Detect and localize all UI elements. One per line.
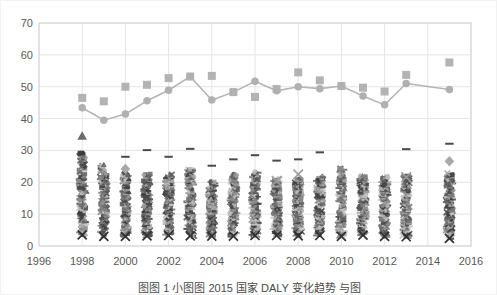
marker-square xyxy=(294,68,302,76)
x-axis-tick-label: 2006 xyxy=(243,255,267,267)
marker-square xyxy=(100,97,108,105)
line-series xyxy=(78,73,453,124)
figure-canvas: 0102030405060701996199820002002200420062… xyxy=(0,0,497,295)
marker-dash xyxy=(272,160,280,162)
marker-square xyxy=(381,87,389,95)
marker-circle xyxy=(165,86,173,94)
triangle-outlier xyxy=(77,131,87,139)
x-axis-tick-label: 2012 xyxy=(372,255,396,267)
marker-dash xyxy=(445,143,453,145)
marker-dash xyxy=(188,167,194,169)
marker-square xyxy=(316,76,324,84)
marker-circle xyxy=(122,110,129,118)
marker-diamond xyxy=(445,156,455,166)
marker-dash xyxy=(402,148,410,150)
marker-circle xyxy=(78,104,86,112)
y-axis-tick-label: 30 xyxy=(21,144,33,156)
y-axis-tick-label: 10 xyxy=(21,208,33,220)
marker-dash xyxy=(121,156,129,158)
x-axis-tick-label: 2016 xyxy=(459,255,483,267)
marker-square xyxy=(359,84,367,92)
marker-circle xyxy=(294,83,302,91)
x-axis-tick-label: 2010 xyxy=(329,255,353,267)
marker-square xyxy=(98,175,103,180)
marker-circle xyxy=(251,78,259,86)
diamond-outliers xyxy=(121,156,455,174)
marker-square xyxy=(445,59,453,67)
x-axis-tick-label: 2008 xyxy=(286,255,310,267)
marker-circle xyxy=(359,92,367,100)
marker-circle xyxy=(100,116,108,124)
x-axis-tick-label: 1996 xyxy=(27,255,51,267)
x-axis-tick-label: 1998 xyxy=(70,255,94,267)
marker-dash xyxy=(164,156,172,158)
marker-circle xyxy=(208,96,216,104)
y-axis-tick-label: 20 xyxy=(21,176,33,188)
marker-square xyxy=(363,174,368,179)
marker-square xyxy=(148,172,153,177)
trend-line xyxy=(82,77,406,121)
marker-dash xyxy=(143,149,151,151)
square-series xyxy=(78,59,453,106)
marker-dash xyxy=(270,228,276,230)
x-axis-tick-label: 2002 xyxy=(156,255,180,267)
figure-caption: 图图 1 小图图 2015 国家 DALY 变化趋势 与图 xyxy=(1,277,497,295)
marker-dash xyxy=(316,151,324,153)
marker-square xyxy=(251,93,259,101)
marker-dash xyxy=(320,176,326,178)
x-axis-tick-label: 2000 xyxy=(113,255,137,267)
chart-area: 0102030405060701996199820002002200420062… xyxy=(1,1,497,273)
x-axis-tick-label: 2014 xyxy=(416,255,440,267)
marker-circle xyxy=(230,88,238,96)
y-axis-tick-label: 60 xyxy=(21,49,33,61)
marker-square xyxy=(208,72,216,80)
cluster-series xyxy=(76,150,456,242)
marker-square xyxy=(402,71,410,79)
high-outlier-dashes xyxy=(121,143,453,167)
marker-circle xyxy=(273,87,281,95)
marker-dash xyxy=(78,151,84,153)
marker-dash xyxy=(294,158,302,160)
marker-square xyxy=(121,83,129,91)
marker-square xyxy=(165,74,173,82)
marker-circle xyxy=(402,80,410,88)
marker-circle xyxy=(446,86,454,94)
marker-square xyxy=(143,81,151,89)
y-axis-tick-label: 70 xyxy=(21,17,33,29)
marker-circle xyxy=(143,97,151,105)
marker-circle xyxy=(186,73,194,81)
marker-triangle xyxy=(77,131,87,139)
y-axis-tick-label: 0 xyxy=(27,240,33,252)
marker-square xyxy=(450,172,455,177)
marker-dash xyxy=(251,154,259,156)
x-axis-tick-label: 2004 xyxy=(200,255,224,267)
marker-circle xyxy=(338,82,346,90)
y-axis-tick-label: 40 xyxy=(21,113,33,125)
marker-dash xyxy=(186,148,194,150)
marker-circle xyxy=(381,101,389,109)
marker-dash xyxy=(229,158,237,160)
marker-circle xyxy=(316,85,324,93)
marker-square xyxy=(78,94,86,102)
marker-square xyxy=(338,166,343,171)
y-axis-tick-label: 50 xyxy=(21,81,33,93)
marker-dash xyxy=(208,165,216,167)
scatter-line-chart: 0102030405060701996199820002002200420062… xyxy=(1,1,497,273)
